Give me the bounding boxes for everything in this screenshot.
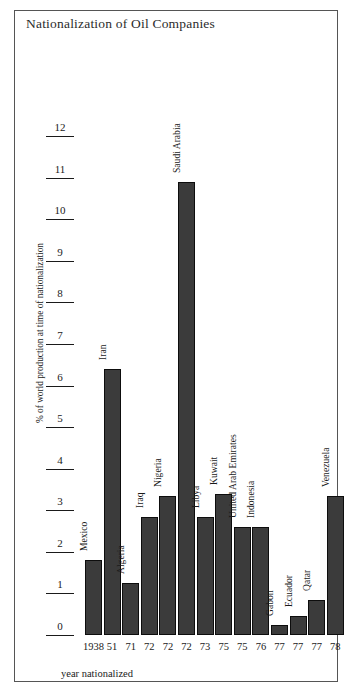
bar-country-label: Ecuador [283, 575, 294, 607]
bar-country-label: Qatar [301, 569, 312, 590]
bar-group: Qatar77 [308, 600, 325, 635]
bar-year-label: 76 [256, 641, 267, 652]
bar-rect[interactable] [252, 527, 269, 635]
plot-area: % of world production at time of nationa… [14, 10, 338, 682]
bar-country-label: Libya [190, 485, 201, 507]
bar-year-label: 73 [200, 641, 211, 652]
bar-group: Algeria71 [122, 583, 139, 635]
bar-series: Mexico1938Iran51Algeria71Iraq72Nigeria72… [14, 10, 338, 682]
bar-country-label: Mexico [78, 522, 89, 551]
bar-year-label: 75 [218, 641, 229, 652]
bar-country-label: United Arab Emirates [227, 434, 238, 518]
bar-year-label: 75 [237, 641, 248, 652]
bar-group: Iraq72 [141, 517, 158, 636]
bar-rect[interactable] [290, 616, 307, 635]
bar-group: Nigeria72 [159, 496, 176, 635]
bar-rect[interactable] [85, 560, 102, 635]
bar-rect[interactable] [141, 517, 158, 636]
bar-rect[interactable] [308, 600, 325, 635]
bar-year-label: 72 [163, 641, 174, 652]
bar-group: Mexico1938 [85, 560, 102, 635]
bar-group: Venezuela78 [327, 496, 344, 635]
bar-rect[interactable] [122, 583, 139, 635]
bar-rect[interactable] [178, 182, 195, 635]
bar-rect[interactable] [271, 625, 288, 635]
bar-country-label: Saudi Arabia [171, 123, 182, 173]
bar-group: United Arab Emirates75 [234, 527, 251, 635]
bar-year-label: 71 [125, 641, 136, 652]
bar-rect[interactable] [197, 517, 214, 636]
bar-country-label: Kuwait [208, 456, 219, 484]
bar-group: Indonesia76 [252, 527, 269, 635]
bar-country-label: Iran [97, 344, 108, 359]
x-axis-label: year nationalized [61, 668, 133, 679]
bar-country-label: Algeria [115, 545, 126, 574]
figure-canvas: Nationalization of Oil Companies % of wo… [0, 0, 353, 694]
bar-group: Saudi Arabia72 [178, 182, 195, 635]
bar-year-label: 51 [107, 641, 118, 652]
bar-year-label: 78 [330, 641, 341, 652]
bar-country-label: Venezuela [320, 447, 331, 486]
bar-country-label: Nigeria [152, 458, 163, 487]
bar-group: Ecuador77 [290, 616, 307, 635]
bar-year-label: 72 [144, 641, 155, 652]
bar-group: Libya73 [197, 517, 214, 636]
bar-year-label: 72 [181, 641, 192, 652]
bar-group: Iran51 [104, 369, 121, 635]
bar-year-label: 77 [293, 641, 304, 652]
bar-group: Gabon77 [271, 625, 288, 635]
bar-rect[interactable] [234, 527, 251, 635]
bar-year-label: 77 [274, 641, 285, 652]
bar-country-label: Iraq [134, 492, 145, 507]
bar-country-label: Gabon [264, 590, 275, 616]
bar-rect[interactable] [104, 369, 121, 635]
bar-year-label: 77 [311, 641, 322, 652]
bar-year-label: 1938 [83, 641, 104, 652]
bar-country-label: Indonesia [245, 481, 256, 518]
bar-rect[interactable] [159, 496, 176, 635]
bar-rect[interactable] [327, 496, 344, 635]
